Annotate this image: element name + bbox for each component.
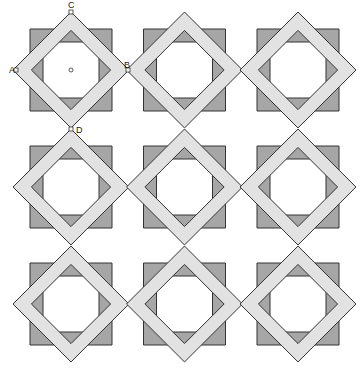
star-tile-r1-c1: [13, 12, 129, 128]
star-tile-r2-c3: [240, 129, 356, 245]
star-tile-r2-c1: [13, 129, 129, 245]
point-label-d: D: [76, 125, 83, 135]
star-tile-r3-c2: [127, 246, 243, 362]
star-tile-r3-c3: [240, 246, 356, 362]
star-tile-r1-c3: [240, 12, 356, 128]
point-label-c: C: [68, 0, 75, 10]
star-lattice-diagram: ABCD: [0, 0, 363, 374]
center-marker: [69, 68, 73, 72]
point-label-a: A: [9, 65, 15, 75]
tile-grid: [13, 12, 356, 362]
point-marker-c: [69, 10, 73, 14]
star-tile-r2-c2: [127, 129, 243, 245]
point-marker-d: [69, 127, 73, 131]
point-label-b: B: [124, 60, 130, 70]
star-tile-r1-c2: [127, 12, 243, 128]
star-tile-r3-c1: [13, 246, 129, 362]
